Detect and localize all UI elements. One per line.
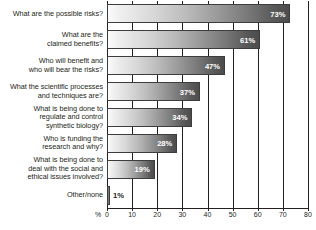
gridline-80 [308,1,309,208]
bar-value-label: 47% [205,61,220,70]
x-tickmark-60 [258,208,259,211]
x-tick-0: 0 [105,211,109,218]
category-label-line: research and why? [0,143,103,152]
x-tick-30: 30 [178,211,186,218]
bar-row: 73% [107,4,308,23]
x-tickmark-10 [132,208,133,211]
x-tickmark-80 [308,208,309,211]
category-label-column: What are the possible risks?What are the… [0,0,103,208]
bar-row: 47% [107,56,308,75]
x-tickmark-70 [283,208,284,211]
bar-row: 1% [107,186,308,205]
bar-value-label: 19% [135,165,150,174]
category-label-line: synthetic biology? [0,122,103,131]
category-label-5: Who is funding theresearch and why? [0,135,103,152]
horizontal-bar-chart: What are the possible risks?What are the… [0,0,316,230]
bar-4: 34% [107,108,192,127]
category-label-4: What is being done toregulate and contro… [0,105,103,131]
x-tickmark-40 [208,208,209,211]
x-tickmark-0 [107,208,108,211]
x-tick-80: 80 [304,211,312,218]
bar-value-label: 37% [180,87,195,96]
category-label-line: claimed benefits? [0,40,103,49]
bar-value-label: 1% [113,191,124,200]
bar-row: 61% [107,30,308,49]
category-label-1: What are theclaimed benefits? [0,31,103,48]
category-label-line: who will bear the risks? [0,66,103,75]
bar-row: 19% [107,160,308,179]
bar-row: 34% [107,108,308,127]
category-label-line: Other/none [0,191,103,200]
bar-2: 47% [107,56,225,75]
bar-row: 37% [107,82,308,101]
category-label-2: Who will benefit andwho will bear the ri… [0,57,103,74]
bar-3: 37% [107,82,200,101]
x-tickmark-30 [182,208,183,211]
category-label-line: and techniques are? [0,92,103,101]
category-label-6: What is being done todeal with the socia… [0,156,103,182]
plot-area: 73%61%47%37%34%28%19%1% [107,1,308,208]
bar-value-label: 34% [172,113,187,122]
bar-value-label: 28% [157,139,172,148]
x-tick-40: 40 [204,211,212,218]
x-axis-unit-label: % [95,211,101,218]
category-label-line: ethical issues involved? [0,173,103,182]
x-tick-10: 10 [128,211,136,218]
x-tick-60: 60 [254,211,262,218]
x-tickmark-50 [233,208,234,211]
bar-1: 61% [107,30,260,49]
x-tickmark-20 [157,208,158,211]
bar-value-label: 73% [270,9,285,18]
bar-6: 19% [107,160,155,179]
bar-row: 28% [107,134,308,153]
x-axis-tick-labels: %01020304050607080 [0,211,316,225]
bar-0: 73% [107,4,290,23]
bar-5: 28% [107,134,177,153]
x-tick-50: 50 [229,211,237,218]
bar-7: 1% [107,186,110,205]
category-label-3: What the scientific processesand techniq… [0,83,103,100]
category-label-0: What are the possible risks? [0,10,103,19]
x-tick-70: 70 [279,211,287,218]
bar-value-label: 61% [240,35,255,44]
x-tick-20: 20 [153,211,161,218]
category-label-7: Other/none [0,191,103,200]
category-label-line: What are the possible risks? [0,10,103,19]
